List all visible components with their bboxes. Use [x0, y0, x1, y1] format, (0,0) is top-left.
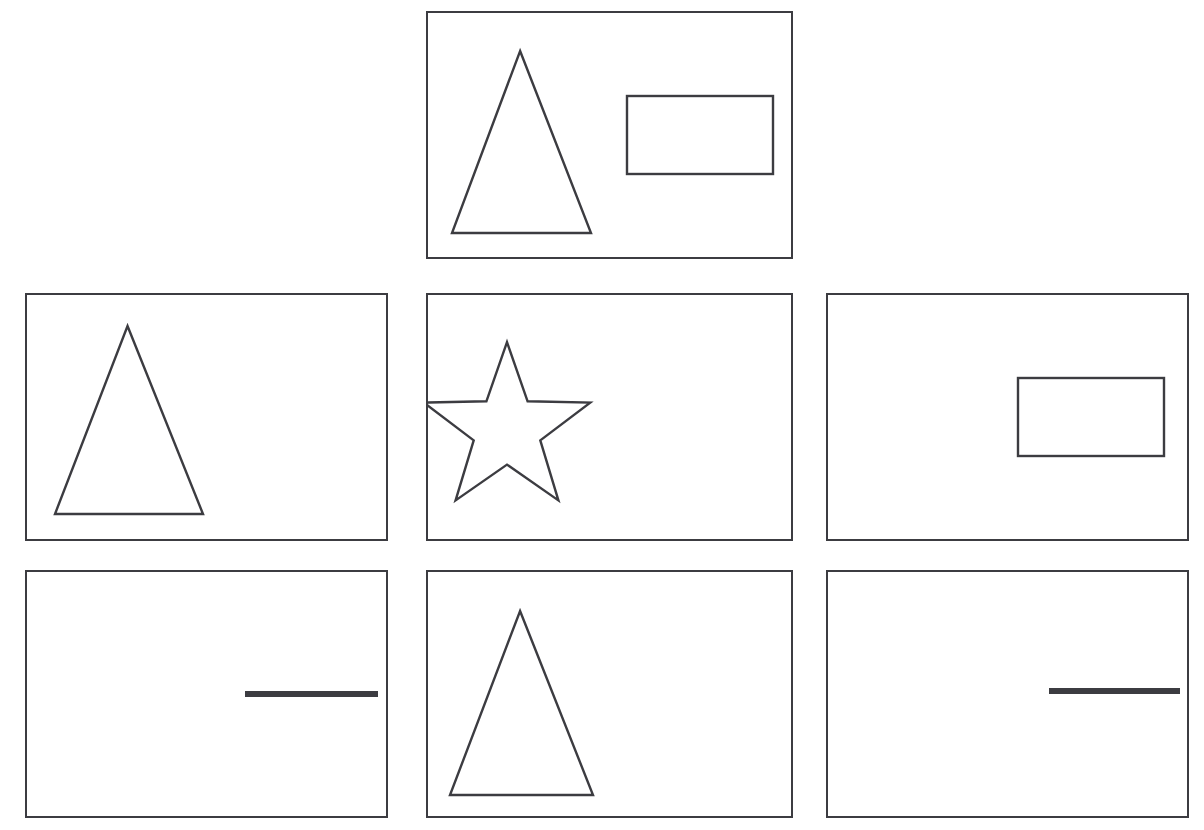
panel-bottom-left-canvas — [27, 572, 390, 820]
horizontal-line-shape — [1049, 688, 1180, 694]
panel-bottom-right[interactable] — [826, 570, 1189, 818]
horizontal-line-shape — [245, 691, 378, 697]
shape-panel-grid — [0, 0, 1204, 830]
rectangle-shape — [1018, 378, 1164, 456]
rectangle-shape — [627, 96, 773, 174]
triangle-shape — [450, 611, 593, 795]
panel-bottom-center[interactable] — [426, 570, 793, 818]
star-shape — [428, 342, 590, 500]
panel-middle-center-canvas — [428, 295, 795, 543]
triangle-shape — [452, 51, 591, 233]
panel-top-center-canvas — [428, 13, 795, 261]
panel-bottom-right-canvas — [828, 572, 1191, 820]
panel-bottom-left[interactable] — [25, 570, 388, 818]
triangle-shape — [55, 326, 203, 514]
panel-middle-left-canvas — [27, 295, 390, 543]
panel-middle-left[interactable] — [25, 293, 388, 541]
panel-middle-center[interactable] — [426, 293, 793, 541]
panel-middle-right[interactable] — [826, 293, 1189, 541]
panel-middle-right-canvas — [828, 295, 1191, 543]
panel-bottom-center-canvas — [428, 572, 795, 820]
panel-top-center[interactable] — [426, 11, 793, 259]
